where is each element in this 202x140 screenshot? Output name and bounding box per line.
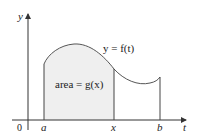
tick-label-x: x bbox=[110, 121, 116, 133]
tick-label-b: b bbox=[157, 121, 163, 133]
area-function-diagram: y t 0 a x b y = f(t) area = g(x) bbox=[0, 0, 202, 140]
area-label: area = g(x) bbox=[55, 78, 104, 91]
origin-label: 0 bbox=[17, 122, 22, 133]
curve-label: y = f(t) bbox=[103, 42, 135, 55]
t-axis-label: t bbox=[183, 121, 187, 133]
tick-label-a: a bbox=[41, 121, 47, 133]
y-axis-label: y bbox=[17, 10, 23, 22]
